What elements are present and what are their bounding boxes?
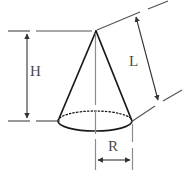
slant-extension-line-lower xyxy=(131,106,155,122)
slant-label: L xyxy=(129,54,138,69)
height-dimension-group xyxy=(8,31,92,121)
slant-extension-line-upper xyxy=(97,12,140,30)
height-label: H xyxy=(30,64,41,79)
slant-extension-line-upper-b xyxy=(148,1,168,9)
cone-dimension-diagram: H L R xyxy=(0,0,186,173)
cone-left-slant-edge xyxy=(58,31,96,121)
cone-right-slant-edge xyxy=(96,31,132,121)
cone-figure-svg xyxy=(0,0,186,173)
radius-label: R xyxy=(108,139,118,154)
slant-dimension-group xyxy=(97,1,182,122)
slant-extension-line-lower-b xyxy=(163,90,182,101)
slant-dimension-arrow xyxy=(136,17,158,100)
